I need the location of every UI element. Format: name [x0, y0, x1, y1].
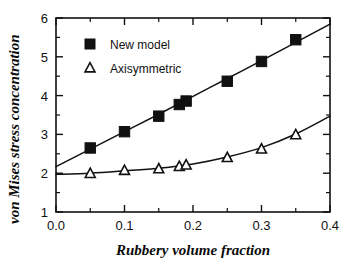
y-tick-label: 3 — [41, 127, 48, 142]
y-tick-label: 5 — [41, 50, 48, 65]
legend-label: Axisymmetric — [110, 62, 181, 76]
y-tick-label: 4 — [41, 89, 48, 104]
data-point-square — [181, 96, 191, 106]
x-tick-label: 0.0 — [47, 218, 65, 233]
y-axis-title: von Mises stress concentration — [6, 34, 22, 224]
von-mises-stress-scatter-chart: von Mises stress concentration Rubbery v… — [0, 0, 354, 267]
y-tick-label: 1 — [41, 205, 48, 220]
x-axis-title: Rubbery volume fraction — [115, 242, 270, 258]
data-point-square — [119, 126, 129, 136]
chart-figure: von Mises stress concentration Rubbery v… — [0, 0, 354, 267]
data-point-square — [222, 76, 232, 86]
data-point-square — [256, 56, 266, 66]
legend-marker-square — [85, 39, 95, 49]
x-tick-label: 0.2 — [184, 218, 202, 233]
y-tick-label: 6 — [41, 11, 48, 26]
x-tick-label: 0.4 — [321, 218, 339, 233]
data-point-square — [291, 35, 301, 45]
legend-label: New model — [110, 38, 170, 52]
x-tick-label: 0.3 — [252, 218, 270, 233]
data-point-square — [154, 111, 164, 121]
x-tick-label: 0.1 — [115, 218, 133, 233]
data-point-square — [85, 143, 95, 153]
y-tick-label: 2 — [41, 166, 48, 181]
